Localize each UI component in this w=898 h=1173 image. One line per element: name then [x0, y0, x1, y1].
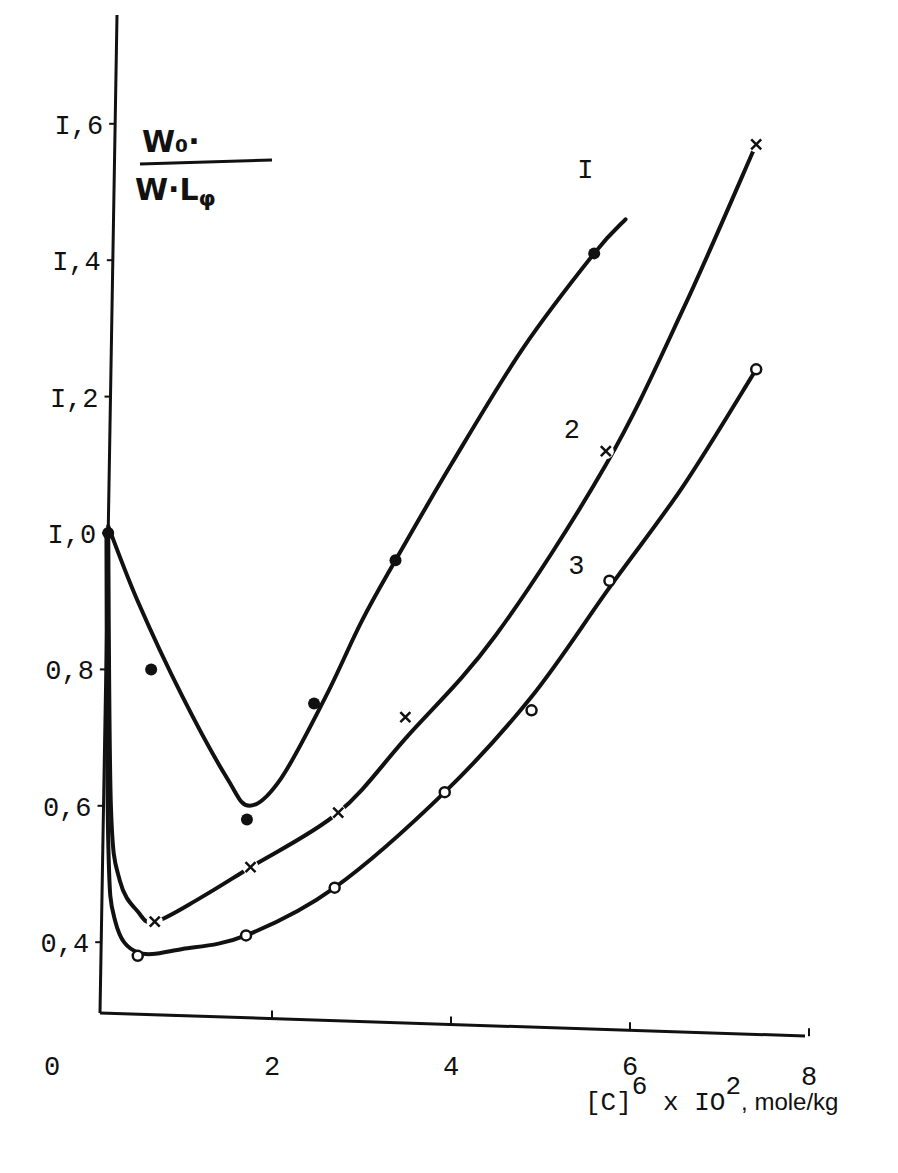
- markers: [102, 136, 764, 961]
- data-point-series-3: [133, 951, 143, 961]
- y-tick-label: I,2: [50, 385, 99, 415]
- data-point-series-2: [748, 136, 764, 152]
- data-point-series-1: [241, 813, 253, 825]
- y-label-numerator: W₀·: [142, 124, 200, 159]
- y-label-denominator: W·Lφ: [135, 172, 216, 211]
- y-tick-label: I,0: [48, 521, 97, 551]
- axes: [95, 15, 809, 1036]
- x-tick-label: 0: [44, 1053, 60, 1083]
- data-point-series-3: [751, 364, 761, 374]
- data-point-series-3: [440, 787, 450, 797]
- data-point-series-3: [527, 705, 537, 715]
- curves: [106, 144, 756, 954]
- series-line-1: [108, 219, 625, 806]
- data-point-series-2: [397, 709, 413, 725]
- x-tick-label: 2: [264, 1053, 280, 1083]
- data-point-series-2: [243, 859, 259, 875]
- x-tick-label: 4: [443, 1053, 459, 1083]
- data-point-series-2: [330, 805, 346, 821]
- data-point-series-1: [308, 698, 320, 710]
- series-line-3: [106, 369, 756, 954]
- chart: 0,40,60,8I,0I,2I,4I,602468I23 W₀· W·Lφ […: [0, 0, 898, 1173]
- y-label-fraction-bar: [140, 160, 272, 164]
- data-point-series-1: [102, 527, 114, 539]
- y-tick-label: I,6: [55, 112, 104, 142]
- x-axis-line: [100, 1013, 805, 1036]
- labels: 0,40,60,8I,0I,2I,4I,602468I23: [41, 112, 818, 1093]
- data-point-series-1: [588, 247, 600, 259]
- curve-label-3: 3: [568, 552, 584, 582]
- y-tick-label: 0,6: [43, 794, 92, 824]
- data-point-series-3: [604, 576, 614, 586]
- data-point-series-2: [598, 443, 614, 459]
- curve-label-1: I: [577, 156, 593, 186]
- y-tick-label: 0,8: [45, 657, 94, 687]
- y-tick-label: I,4: [52, 248, 101, 278]
- data-point-series-3: [330, 883, 340, 893]
- data-point-series-2: [147, 914, 163, 930]
- data-point-series-1: [145, 663, 157, 675]
- y-axis-label: W₀· W·Lφ: [135, 124, 272, 211]
- data-point-series-3: [241, 930, 251, 940]
- data-point-series-1: [390, 554, 402, 566]
- curve-label-2: 2: [564, 416, 580, 446]
- y-tick-label: 0,4: [41, 930, 90, 960]
